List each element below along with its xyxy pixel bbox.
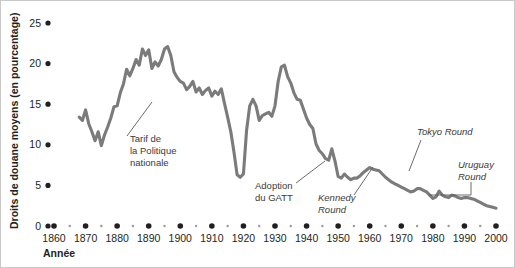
x-axis-tick-label: 1960	[358, 232, 382, 244]
y-axis-title: Droits de douane moyens (en pourcentage)	[8, 13, 20, 229]
annotation-group: Tarif dela PolitiquenationaleAdoptiondu …	[127, 102, 495, 215]
x-axis-tick-dot	[209, 223, 215, 229]
y-axis-tick-label: 15	[29, 98, 41, 110]
x-axis-tick-label: 1940	[295, 232, 319, 244]
x-axis-tick-dot	[430, 223, 436, 229]
y-axis-tick-dot	[45, 142, 50, 147]
x-axis-tick-label: 1980	[421, 232, 445, 244]
x-axis-tick-label: 1930	[263, 232, 287, 244]
x-axis-minor-tick-dot	[69, 225, 71, 227]
x-axis-tick-group: 1860187018801890190019101920193019401950…	[42, 223, 508, 244]
x-axis-minor-tick-dot	[479, 225, 481, 227]
x-axis-minor-tick-dot	[290, 225, 292, 227]
x-axis-minor-tick-dot	[195, 225, 197, 227]
x-axis-tick-label: 1920	[232, 232, 256, 244]
y-axis-tick-dot	[45, 20, 50, 25]
x-axis-tick-label: 1880	[105, 232, 129, 244]
y-axis-tick-label: 20	[29, 57, 41, 69]
x-axis-tick-dot	[272, 223, 278, 229]
x-axis-minor-tick-dot	[132, 225, 134, 227]
x-axis-tick-dot	[51, 223, 57, 229]
y-axis-tick-label: 5	[35, 179, 41, 191]
x-axis-tick-dot	[83, 223, 89, 229]
y-axis-tick-dot	[45, 61, 50, 66]
tariff-line-chart: 0510152025 18601870188018901900191019201…	[0, 0, 515, 268]
x-axis-minor-tick-dot	[226, 225, 228, 227]
annotation-leader-line	[409, 140, 421, 171]
x-axis-minor-tick-dot	[353, 225, 355, 227]
x-axis-minor-tick-dot	[321, 225, 323, 227]
x-axis-tick-dot	[367, 223, 373, 229]
x-axis-title: Année	[43, 247, 75, 259]
y-axis-tick-dot	[45, 102, 50, 107]
x-axis-minor-tick-dot	[416, 225, 418, 227]
y-axis-tick-dot	[45, 223, 50, 228]
x-axis-tick-label: 1890	[137, 232, 161, 244]
x-axis-minor-tick-dot	[384, 225, 386, 227]
y-axis-tick-label: 10	[29, 138, 41, 150]
annotation-label: KennedyRound	[318, 192, 357, 215]
chart-canvas: 0510152025 18601870188018901900191019201…	[1, 1, 515, 268]
x-axis-tick-label: 2000	[484, 232, 508, 244]
x-axis-minor-tick-dot	[447, 225, 449, 227]
y-axis-tick-dot	[45, 183, 50, 188]
x-axis-minor-tick-dot	[163, 225, 165, 227]
x-axis-tick-dot	[462, 223, 468, 229]
x-axis-tick-dot	[241, 223, 247, 229]
x-axis-tick-label: 1910	[200, 232, 224, 244]
x-axis-tick-label: 1870	[74, 232, 98, 244]
x-axis-tick-dot	[177, 223, 183, 229]
y-axis-tick-label: 25	[29, 17, 41, 29]
x-axis-tick-label: 1900	[169, 232, 193, 244]
annotation-label: Tokyo Round	[417, 126, 473, 137]
x-axis-tick-dot	[146, 223, 152, 229]
x-axis-minor-tick-dot	[258, 225, 260, 227]
x-axis-tick-label: 1990	[453, 232, 477, 244]
x-axis-tick-label: 1860	[42, 232, 66, 244]
annotation-leader-line	[127, 102, 152, 136]
x-axis-tick-dot	[335, 223, 341, 229]
y-axis-tick-label: 0	[35, 220, 41, 232]
y-axis-tick-group: 0510152025	[29, 17, 50, 232]
annotation-leader-line	[296, 161, 325, 183]
annotation-leader-line	[429, 182, 471, 195]
annotation-label: Tarif dela Politiquenationale	[130, 133, 176, 168]
x-axis-tick-label: 1950	[326, 232, 350, 244]
x-axis-tick-label: 1970	[390, 232, 414, 244]
x-axis-tick-dot	[493, 223, 499, 229]
annotation-label: Adoptiondu GATT	[255, 180, 293, 203]
x-axis-tick-dot	[398, 223, 404, 229]
x-axis-tick-dot	[304, 223, 310, 229]
annotation-label: UruguayRound	[458, 159, 495, 182]
x-axis-tick-dot	[114, 223, 120, 229]
x-axis-minor-tick-dot	[100, 225, 102, 227]
